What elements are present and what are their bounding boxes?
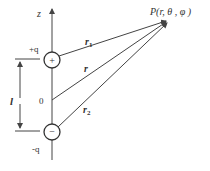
separation-label: l [10, 95, 14, 107]
negative-charge: − [44, 124, 60, 140]
origin-label: 0 [39, 96, 44, 106]
positive-charge-label: +q [29, 44, 39, 54]
r2-label: r2 [83, 104, 91, 117]
r-label: r [84, 63, 88, 74]
vector-r [52, 22, 166, 100]
positive-charge: + [44, 52, 60, 68]
negative-charge-label: -q [32, 144, 40, 154]
vector-r1 [59, 21, 166, 56]
dipole-diagram: z + +q − -q l 0 r1 r r2 P(r, θ , φ ) [0, 0, 210, 171]
point-p-label: P(r, θ , φ ) [149, 6, 192, 18]
minus-symbol: − [49, 126, 55, 137]
z-axis-label: z [36, 8, 41, 19]
plus-symbol: + [49, 55, 55, 66]
